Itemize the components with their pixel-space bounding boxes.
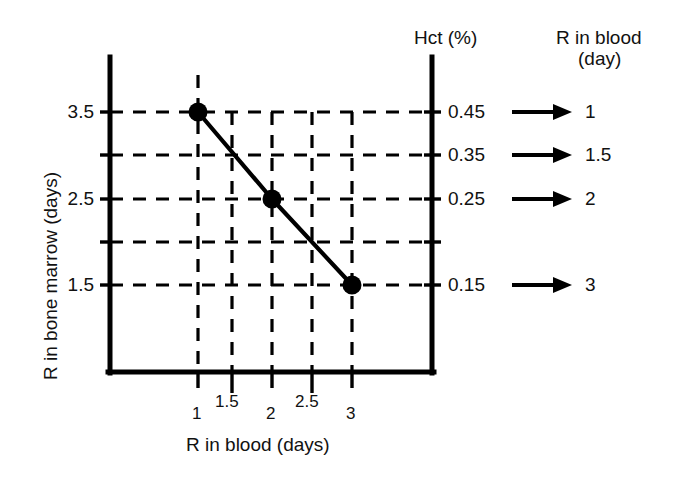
y-tick-label-3.5: 3.5 bbox=[22, 101, 94, 122]
conversion-value-2: 2 bbox=[585, 188, 596, 209]
hct-value-0.35: 0.35 bbox=[448, 144, 485, 165]
vertical-gridlines bbox=[198, 75, 352, 372]
conversion-column-title-line2: (day) bbox=[578, 48, 621, 69]
data-point-2-2.5 bbox=[263, 190, 282, 209]
hct-axis-title: Hct (%) bbox=[414, 27, 477, 48]
hct-value-0.45: 0.45 bbox=[448, 101, 485, 122]
conversion-column-title-line1: R in blood bbox=[556, 27, 642, 48]
x-axis-title: R in blood (days) bbox=[186, 434, 330, 455]
hct-value-0.25: 0.25 bbox=[448, 188, 485, 209]
data-point-3-1.5 bbox=[343, 276, 362, 295]
conversion-value-1.5: 1.5 bbox=[585, 144, 611, 165]
conversion-arrows bbox=[512, 104, 572, 293]
y-tick-label-1.5: 1.5 bbox=[22, 274, 94, 295]
figure-container: R in bone marrow (days) 3.5 2.5 1.5 1 1.… bbox=[0, 0, 684, 488]
hct-value-0.15: 0.15 bbox=[448, 274, 485, 295]
data-point-1-3.5 bbox=[189, 103, 208, 122]
y-tick-label-2.5: 2.5 bbox=[22, 188, 94, 209]
x-tick-label-3: 3 bbox=[346, 404, 355, 423]
x-axis-ticks bbox=[198, 372, 352, 393]
arrow-right-icon-0.25 bbox=[512, 191, 572, 207]
conversion-value-3: 3 bbox=[585, 274, 596, 295]
x-tick-label-1: 1 bbox=[192, 404, 201, 423]
x-tick-label-2: 2 bbox=[266, 404, 275, 423]
x-tick-label-1.5: 1.5 bbox=[215, 392, 239, 411]
x-tick-label-2.5: 2.5 bbox=[295, 392, 319, 411]
conversion-value-1: 1 bbox=[585, 101, 596, 122]
arrow-right-icon-0.35 bbox=[512, 147, 572, 163]
arrow-right-icon-0.45 bbox=[512, 104, 572, 120]
chart-canvas bbox=[0, 0, 684, 488]
arrow-right-icon-0.15 bbox=[512, 277, 572, 293]
